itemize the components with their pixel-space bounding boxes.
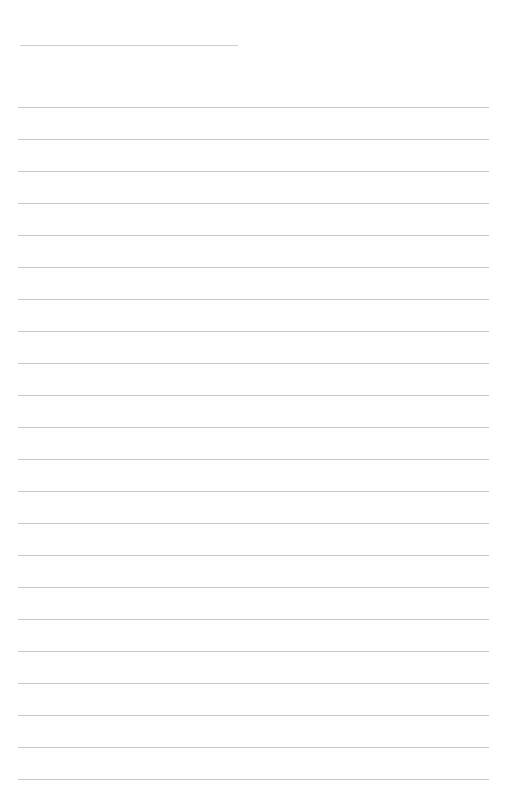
ruled-line [18, 715, 489, 716]
ruled-line [18, 491, 489, 492]
ruled-line [18, 203, 489, 204]
title-line [20, 45, 238, 46]
ruled-line [18, 363, 489, 364]
ruled-line [18, 331, 489, 332]
ruled-line [18, 747, 489, 748]
ruled-line [18, 523, 489, 524]
ruled-line [18, 395, 489, 396]
ruled-line [18, 171, 489, 172]
ruled-line [18, 555, 489, 556]
ruled-line [18, 779, 489, 780]
ruled-line [18, 587, 489, 588]
ruled-line [18, 299, 489, 300]
ruled-line [18, 651, 489, 652]
ruled-line [18, 267, 489, 268]
ruled-line [18, 139, 489, 140]
ruled-line [18, 107, 489, 108]
ruled-line [18, 427, 489, 428]
ruled-line [18, 619, 489, 620]
ruled-line [18, 235, 489, 236]
ruled-line [18, 459, 489, 460]
ruled-line [18, 683, 489, 684]
